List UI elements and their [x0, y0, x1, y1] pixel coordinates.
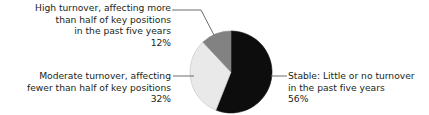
- pie-chart-figure: High turnover, affecting more than half …: [0, 0, 429, 115]
- callout-label-stable: Stable: Little or no turnover in the pas…: [288, 70, 429, 105]
- callout-label-high-turnover: High turnover, affecting more than half …: [0, 2, 171, 48]
- callout-stable-line-1: Stable: Little or no turnover: [288, 70, 429, 82]
- callout-high-value: 12%: [0, 37, 171, 49]
- callout-moderate-line-1: Moderate turnover, affecting: [0, 70, 171, 82]
- callout-label-moderate-turnover: Moderate turnover, affecting fewer than …: [0, 70, 171, 105]
- callout-moderate-line-2: fewer than half of key positions: [0, 82, 171, 94]
- callout-high-line-2: than half of key positions: [0, 14, 171, 26]
- callout-moderate-value: 32%: [0, 93, 171, 105]
- leader-line-high: [172, 10, 214, 35]
- callout-stable-value: 56%: [288, 93, 429, 105]
- callout-high-line-1: High turnover, affecting more: [0, 2, 171, 14]
- callout-stable-line-2: in the past five years: [288, 82, 429, 94]
- callout-high-line-3: in the past five years: [0, 25, 171, 37]
